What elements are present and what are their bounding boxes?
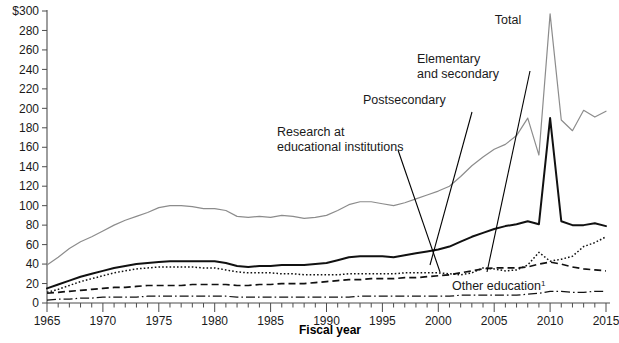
y-axis-tick-label: $300 — [12, 4, 39, 18]
y-axis-tick-label: 140 — [19, 160, 39, 174]
x-axis-tick-label: 2015 — [593, 314, 619, 328]
y-axis-tick-label: 200 — [19, 102, 39, 116]
annotation-total: Total — [495, 13, 521, 27]
y-axis-tick-label: 220 — [19, 82, 39, 96]
x-axis-tick-label: 1965 — [34, 314, 61, 328]
annotation-elem: Elementary — [417, 52, 481, 66]
y-axis-tick-label: 180 — [19, 121, 39, 135]
y-axis-labels: $300280260240220200180160140120100806040… — [12, 4, 39, 310]
y-axis-tick-label: 0 — [32, 296, 39, 310]
annotation-research-line2: educational institutions — [277, 140, 403, 154]
y-axis-tick-label: 100 — [19, 199, 39, 213]
annotation-other: Other education1 — [452, 279, 546, 293]
x-axis-tick-label: 2010 — [537, 314, 564, 328]
annotation-elem-line2: and secondary — [417, 67, 500, 81]
annotation-research: Research at — [277, 125, 345, 139]
annotation-labels: TotalElementaryand secondaryPostsecondar… — [277, 13, 546, 293]
annotation-post: Postsecondary — [363, 93, 446, 107]
x-axis-tick-label: 2000 — [425, 314, 452, 328]
y-axis-tick-label: 20 — [26, 277, 40, 291]
y-axis-tick-label: 160 — [19, 140, 39, 154]
y-axis-tick-label: 280 — [19, 24, 39, 38]
x-axis-tick-label: 2005 — [481, 314, 508, 328]
leader-line-elem — [487, 71, 530, 272]
x-axis-ticks — [47, 303, 606, 312]
y-axis-ticks — [42, 11, 47, 303]
x-axis-tick-label: 1985 — [257, 314, 284, 328]
series-group — [47, 14, 606, 300]
x-axis-tick-label: 1995 — [369, 314, 396, 328]
y-axis-tick-label: 240 — [19, 63, 39, 77]
x-axis-tick-label: 1975 — [145, 314, 172, 328]
y-axis-tick-label: 80 — [26, 218, 40, 232]
x-axis-tick-label: 1970 — [90, 314, 117, 328]
y-axis-tick-label: 260 — [19, 43, 39, 57]
x-axis-title: Fiscal year — [299, 323, 361, 337]
y-axis-tick-label: 60 — [26, 238, 40, 252]
chart-container: $300280260240220200180160140120100806040… — [0, 0, 619, 343]
line-chart: $300280260240220200180160140120100806040… — [0, 0, 619, 343]
y-axis-tick-label: 120 — [19, 179, 39, 193]
leader-line-post — [430, 112, 472, 265]
y-axis-tick-label: 40 — [26, 257, 40, 271]
x-axis-tick-label: 1980 — [201, 314, 228, 328]
